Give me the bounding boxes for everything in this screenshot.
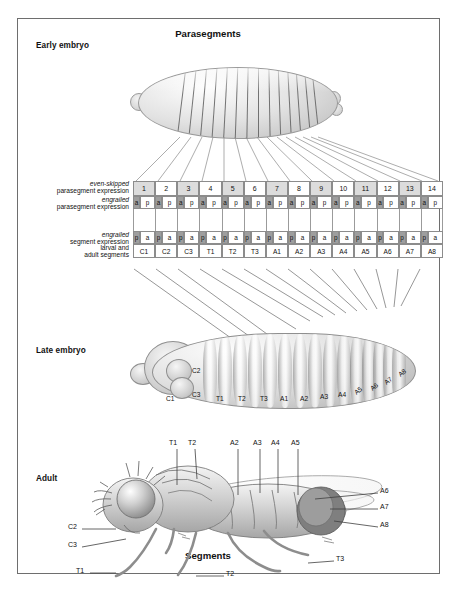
- engrailed-segment-cell-13: a: [273, 231, 288, 244]
- grid-drop-line-13: [421, 209, 422, 231]
- late-embryo-label-T2: T2: [238, 395, 246, 402]
- grid-drop-line-6: [266, 209, 267, 231]
- segment-cell-T3: T3: [244, 244, 266, 258]
- engrailed-parasegment-cell-3: p: [162, 196, 177, 209]
- late-embryo-label-A4: A4: [338, 391, 346, 398]
- figure-frame: Early embryo Parasegments Late embryo Ad…: [17, 18, 440, 574]
- segment-cell-A8: A8: [421, 244, 443, 258]
- engrailed-segment-cell-21: a: [361, 231, 376, 244]
- engrailed-segment-cell-25: a: [406, 231, 421, 244]
- parasegment-cell-8: 8: [288, 181, 310, 196]
- engrailed-segment-cell-12: p: [266, 231, 273, 244]
- parasegment-number-row: even-skipped parasegment expression 1234…: [133, 181, 443, 196]
- engrailed-segment-cell-19: a: [339, 231, 354, 244]
- engrailed-segment-cell-15: a: [295, 231, 310, 244]
- adult-label-a6: A6: [380, 487, 389, 494]
- late-embryo-label-A1: A1: [280, 395, 288, 402]
- parasegment-cell-7: 7: [266, 181, 288, 196]
- adult-label-a5: A5: [291, 439, 300, 446]
- row-label-larval-adult-segments: larval and adult segments: [33, 244, 133, 259]
- late-embryo-label-A3: A3: [320, 393, 328, 400]
- grid-drop-line-7: [288, 209, 289, 231]
- segment-cell-T1: T1: [199, 244, 221, 258]
- engrailed-segment-cell-11: a: [251, 231, 266, 244]
- engrailed-parasegment-cell-19: p: [339, 196, 354, 209]
- engrailed-parasegment-cell-20: a: [354, 196, 361, 209]
- parasegment-cell-10: 10: [332, 181, 354, 196]
- figure-title-parasegments: Parasegments: [108, 28, 308, 39]
- adult-label-a3: A3: [253, 439, 262, 446]
- engrailed-parasegment-cell-23: p: [383, 196, 398, 209]
- adult-label-t2-top: T2: [188, 439, 196, 446]
- late-embryo-label-C1: C1: [166, 395, 174, 402]
- adult-label-a2: A2: [230, 439, 239, 446]
- grid-drop-line-0: [133, 209, 134, 231]
- engrailed-parasegment-cell-1: p: [140, 196, 155, 209]
- segment-cell-A4: A4: [332, 244, 354, 258]
- parasegment-cell-9: 9: [310, 181, 332, 196]
- embryo-body: [138, 67, 338, 139]
- engrailed-parasegment-cell-18: a: [332, 196, 339, 209]
- engrailed-segment-cell-3: a: [162, 231, 177, 244]
- grid-drop-line-8: [310, 209, 311, 231]
- engrailed-parasegment-cell-22: a: [377, 196, 384, 209]
- segment-cell-A6: A6: [377, 244, 399, 258]
- stage-label-adult: Adult: [36, 474, 57, 483]
- late-embryo-label-C3: C3: [192, 391, 200, 398]
- engrailed-parasegment-cell-25: p: [406, 196, 421, 209]
- engrailed-segment-cell-0: p: [133, 231, 140, 244]
- parasegment-cell-5: 5: [222, 181, 244, 196]
- engrailed-parasegment-cell-26: a: [421, 196, 428, 209]
- row-label-engrailed-parasegment: engrailed parasegment expression: [33, 196, 133, 211]
- grid-drop-line-4: [222, 209, 223, 231]
- grid-drop-line-14: [442, 209, 443, 231]
- parasegment-cell-11: 11: [354, 181, 376, 196]
- late-embryo-illustration: C1C2C3T1T2T3A1A2A3A4A5A6A7A8: [130, 319, 430, 419]
- engrailed-parasegment-cell-5: p: [184, 196, 199, 209]
- grid-drop-line-5: [244, 209, 245, 231]
- parasegment-cell-6: 6: [244, 181, 266, 196]
- adult-label-t3-leg: T3: [336, 555, 344, 562]
- early-embryo-illustration: [130, 63, 345, 141]
- adult-label-t2-leg: T2: [226, 570, 234, 577]
- engrailed-segment-cell-4: p: [177, 231, 184, 244]
- segment-cell-C1: C1: [133, 244, 155, 258]
- engrailed-parasegment-cell-12: a: [266, 196, 273, 209]
- parasegment-cell-2: 2: [155, 181, 177, 196]
- engrailed-parasegment-cell-9: p: [228, 196, 243, 209]
- engrailed-segment-cell-1: a: [140, 231, 155, 244]
- segment-cell-C3: C3: [177, 244, 199, 258]
- grid-drop-line-11: [377, 209, 378, 231]
- engrailed-parasegment-cell-7: p: [206, 196, 221, 209]
- engrailed-segment-cell-16: p: [310, 231, 317, 244]
- engrailed-segment-cell-22: p: [377, 231, 384, 244]
- engrailed-segment-cell-23: a: [383, 231, 398, 244]
- segment-cell-C2: C2: [155, 244, 177, 258]
- segment-cell-A3: A3: [310, 244, 332, 258]
- engrailed-parasegment-cell-4: a: [177, 196, 184, 209]
- engrailed-parasegment-cell-11: p: [251, 196, 266, 209]
- segment-name-row: larval and adult segments C1C2C3T1T2T3A1…: [133, 244, 443, 258]
- grid-drop-line-12: [399, 209, 400, 231]
- engrailed-parasegment-cell-2: a: [155, 196, 162, 209]
- parasegment-cell-1: 1: [133, 181, 155, 196]
- engrailed-segment-cell-26: p: [421, 231, 428, 244]
- stage-label-early-embryo: Early embryo: [36, 41, 89, 50]
- adult-leader-lines: [78, 437, 418, 577]
- parasegment-cell-13: 13: [399, 181, 421, 196]
- late-embryo-label-T1: T1: [216, 395, 224, 402]
- engrailed-parasegment-cell-0: a: [133, 196, 140, 209]
- engrailed-segment-cell-18: p: [332, 231, 339, 244]
- engrailed-segment-cell-8: p: [222, 231, 229, 244]
- engrailed-segment-cell-20: p: [354, 231, 361, 244]
- grid-drop-line-3: [199, 209, 200, 231]
- segment-cell-T2: T2: [222, 244, 244, 258]
- segment-cell-A2: A2: [288, 244, 310, 258]
- segment-cell-A5: A5: [354, 244, 376, 258]
- adult-fly-illustration: T1 T2 A2 A3 A4 A5 A6 A7 A8 C2 C3 T1 T2 T…: [78, 437, 418, 577]
- engrailed-segment-cell-10: p: [244, 231, 251, 244]
- adult-label-a7: A7: [380, 503, 389, 510]
- engrailed-parasegment-cell-27: p: [428, 196, 443, 209]
- grid-drop-line-2: [177, 209, 178, 231]
- engrailed-parasegment-cell-8: a: [222, 196, 229, 209]
